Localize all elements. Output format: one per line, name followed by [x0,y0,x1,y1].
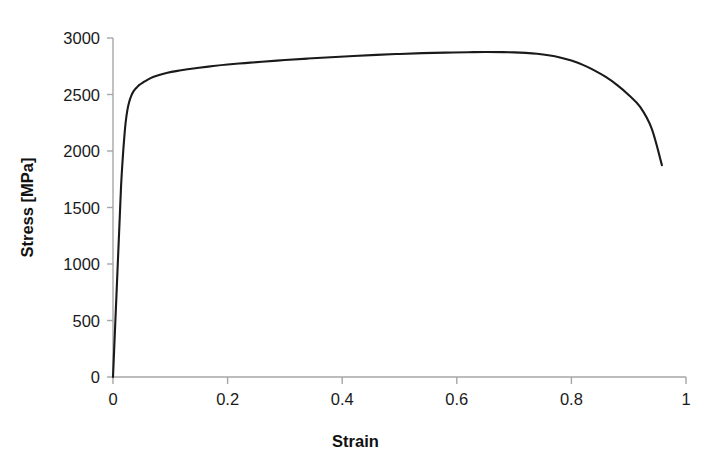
x-tick-label: 0.4 [331,390,354,409]
y-tick-label: 1000 [0,255,100,274]
axis-ticks [107,38,686,384]
plot-canvas [0,0,711,471]
y-tick-label: 500 [0,311,100,330]
y-axis-title: Stress [MPa] [18,158,37,258]
x-tick-label: 0.6 [445,390,468,409]
x-tick-label: 0.8 [560,390,583,409]
y-tick-label: 2500 [0,85,100,104]
x-axis-title: Strain [0,432,711,451]
stress-strain-chart-figure: 050010001500200025003000 00.20.40.60.81 … [0,0,711,471]
stress-strain-curve [113,52,662,377]
y-tick-label: 3000 [0,29,100,48]
x-tick-label: 1 [681,390,690,409]
x-tick-label: 0 [108,390,117,409]
y-tick-label: 2000 [0,142,100,161]
y-tick-label: 0 [0,368,100,387]
y-tick-label: 1500 [0,198,100,217]
x-tick-label: 0.2 [216,390,239,409]
axis-lines [113,38,686,377]
